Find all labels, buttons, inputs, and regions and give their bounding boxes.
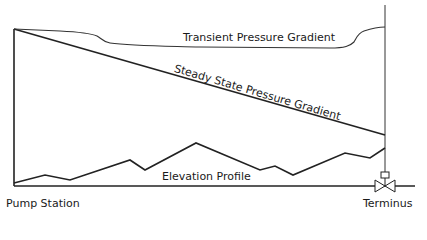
terminus-label: Terminus [363, 198, 412, 209]
elevation-profile-label: Elevation Profile [162, 171, 251, 182]
transient-gradient-label: Transient Pressure Gradient [183, 32, 335, 43]
gate-valve-icon [375, 172, 395, 192]
pump-station-label: Pump Station [6, 198, 80, 209]
